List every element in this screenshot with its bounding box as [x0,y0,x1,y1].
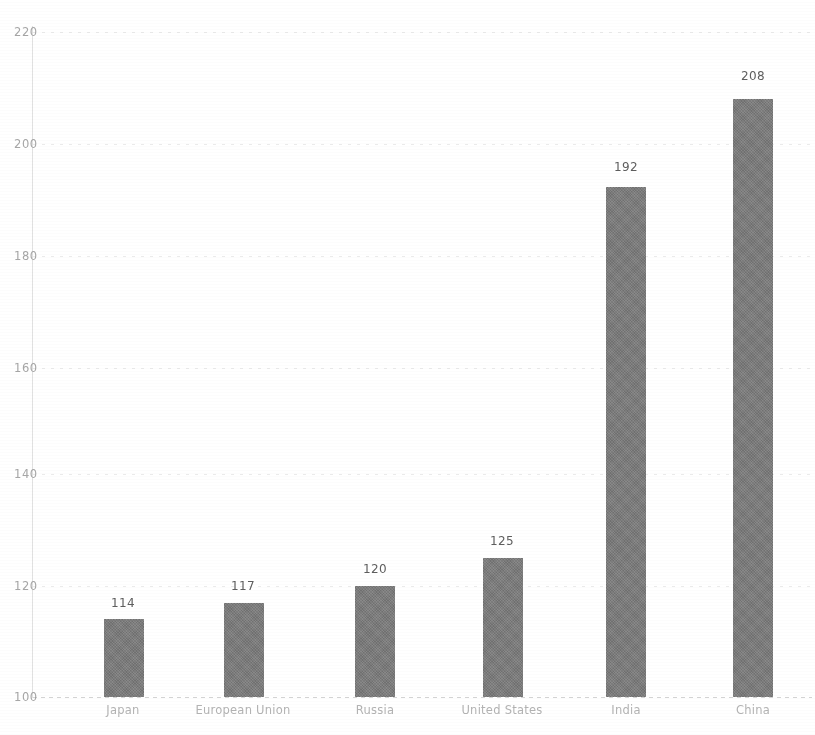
bar-value-united-states: 125 [463,535,541,548]
bar-chart: 220 200 180 160 140 120 100 114 117 120 … [0,0,815,735]
bar-russia[interactable] [355,586,395,697]
bar-japan[interactable] [104,619,144,697]
bar-china[interactable] [733,99,773,698]
gridline-baseline-100 [33,697,812,698]
category-label-japan: Japan [63,703,183,717]
gridline-140 [33,474,812,475]
category-label-united-states: United States [442,703,562,717]
bar-european-union[interactable] [224,603,264,697]
gridline-180 [33,256,812,257]
gridline-220 [33,32,812,33]
bar-value-china: 208 [714,70,792,83]
bar-united-states[interactable] [483,558,523,697]
gridline-200 [33,144,812,145]
category-label-russia: Russia [315,703,435,717]
bar-value-european-union: 117 [204,580,282,593]
category-label-india: India [566,703,686,717]
bar-value-japan: 114 [84,597,162,610]
bar-value-russia: 120 [336,563,414,576]
bar-value-india: 192 [587,161,665,174]
gridline-120 [33,586,812,587]
category-label-european-union: European Union [183,703,303,717]
bar-india[interactable] [606,187,646,697]
gridline-160 [33,368,812,369]
category-label-china: China [693,703,813,717]
